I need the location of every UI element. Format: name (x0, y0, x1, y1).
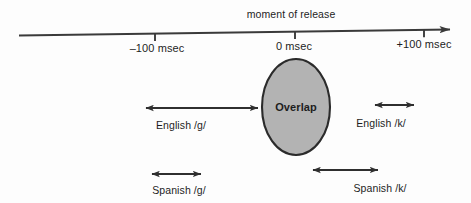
tick-label-minus-100: –100 msec (130, 43, 185, 54)
tick-label-plus-100: +100 msec (396, 39, 451, 50)
voice-onset-time-figure: moment of release –100 msec 0 msec +100 … (0, 0, 471, 203)
figure-canvas (0, 0, 471, 203)
time-axis (19, 30, 450, 42)
range-label-spanish-g: Spanish /g/ (152, 185, 206, 196)
range-label-spanish-k: Spanish /k/ (353, 183, 406, 194)
range-label-english-g: English /g/ (156, 120, 206, 131)
range-label-english-k: English /k/ (356, 118, 406, 129)
axis-caption: moment of release (247, 9, 336, 20)
tick-label-zero: 0 msec (276, 41, 312, 52)
overlap-label: Overlap (275, 102, 317, 113)
axis-line (19, 30, 450, 36)
